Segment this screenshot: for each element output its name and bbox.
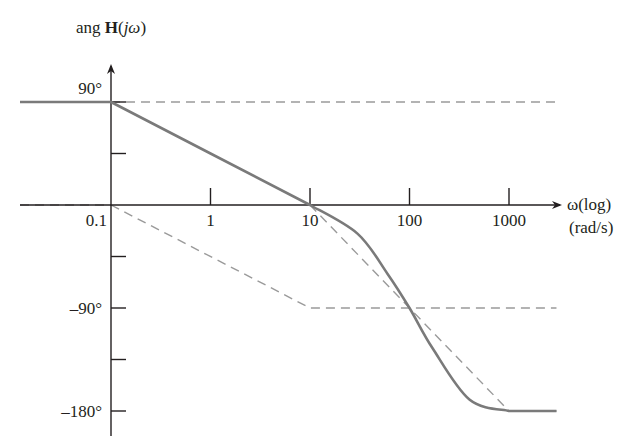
- x-axis-label-line2: (rad/s): [569, 218, 613, 237]
- x-tick-label: 1: [206, 211, 215, 230]
- bode-phase-plot: ang H(jω) ω(log) (rad/s) 0.1110100100090…: [0, 0, 624, 441]
- y-tick-label: –180°: [60, 402, 102, 421]
- asymptote-line: [111, 205, 556, 308]
- asymptote-lines: [20, 102, 556, 411]
- x-ticks: [211, 188, 510, 205]
- y-tick-label: –90°: [69, 299, 102, 318]
- x-tick-label: 10: [302, 211, 319, 230]
- y-axis-label: ang H(jω): [76, 18, 146, 37]
- tick-labels: 0.1110100100090°–90°–180°: [60, 79, 526, 421]
- phase-curve: [20, 102, 556, 411]
- y-ticks: [111, 102, 126, 411]
- x-tick-label: 100: [397, 211, 423, 230]
- y-tick-label: 90°: [78, 79, 102, 98]
- x-axis-label-line1: ω(log): [567, 195, 611, 214]
- x-tick-label: 1000: [492, 211, 526, 230]
- x-tick-label: 0.1: [86, 211, 107, 230]
